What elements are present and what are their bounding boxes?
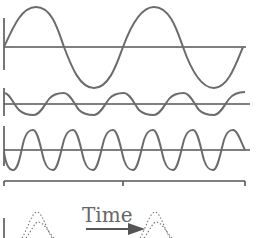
pulse-before-secondary-icon xyxy=(26,222,54,238)
time-arrow-head-icon xyxy=(128,223,145,235)
time-label: Time xyxy=(82,203,133,227)
mid-frequency-wave-group xyxy=(4,88,250,116)
pulse-after-secondary-icon xyxy=(144,222,172,238)
pulse-propagation: Time xyxy=(4,203,172,238)
pulse-before-icon xyxy=(22,212,52,238)
high-frequency-wave-group xyxy=(4,126,250,170)
pulse-after-icon xyxy=(140,212,170,238)
time-axis xyxy=(4,181,245,186)
low-frequency-wave-group xyxy=(4,7,246,88)
wave-superposition-diagram: Time xyxy=(0,0,258,238)
